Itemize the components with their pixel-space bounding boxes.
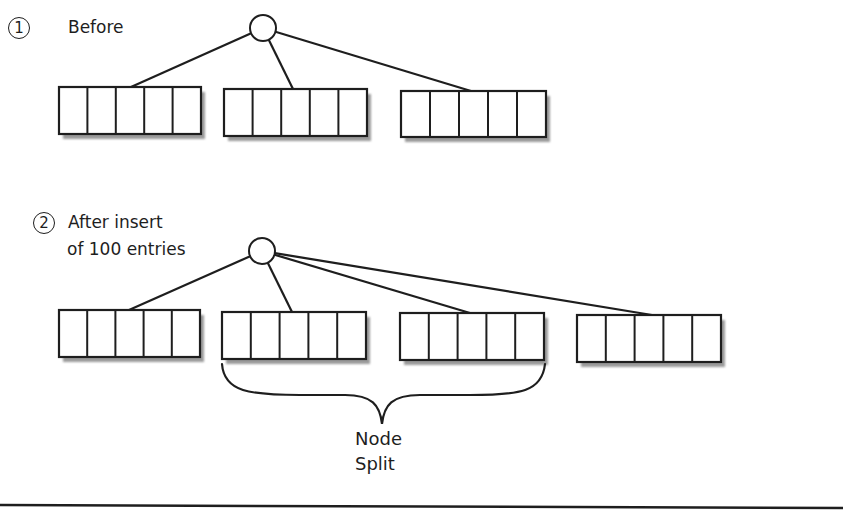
node-box (400, 313, 544, 360)
node-box (222, 312, 366, 359)
after-link-1 (129, 256, 250, 310)
before-leaf-node-3 (401, 91, 550, 142)
step-2-number-badge: 2 (33, 212, 55, 234)
bottom-rule (0, 505, 843, 508)
node-split-label-line1: Node (355, 428, 402, 450)
before-tree (59, 15, 550, 142)
node-split-label-line2: Split (355, 453, 395, 475)
node-split-brace (222, 364, 545, 424)
node-box (59, 310, 200, 357)
after-leaf-node-4 (577, 315, 725, 367)
after-leaf-node-3 (400, 313, 548, 365)
before-link-2 (269, 40, 293, 89)
after-leaf-node-1 (59, 310, 204, 362)
after-link-3 (274, 255, 470, 313)
before-leaf-node-2 (224, 89, 371, 141)
b-tree-split-diagram (0, 0, 848, 529)
step-1-number-badge: 1 (8, 17, 30, 39)
node-box (224, 89, 367, 136)
step-2-label-line2: of 100 entries (67, 238, 186, 260)
before-link-1 (131, 33, 251, 87)
node-box (577, 315, 721, 362)
after-link-2 (268, 263, 292, 312)
before-leaf-node-1 (59, 87, 205, 139)
before-root-node (250, 15, 276, 41)
after-link-4 (275, 253, 652, 315)
after-leaf-node-2 (222, 312, 370, 364)
node-box (401, 91, 546, 137)
after-root-node (249, 238, 275, 264)
before-link-3 (275, 32, 471, 91)
step-1-label: Before (68, 16, 124, 38)
node-box (59, 87, 201, 134)
step-2-label-line1: After insert (68, 211, 163, 233)
